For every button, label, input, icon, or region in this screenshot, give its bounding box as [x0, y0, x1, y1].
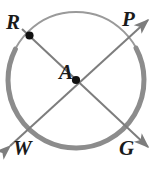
- point-a-marker: [72, 76, 80, 84]
- line-rg: [22, 29, 148, 147]
- point-r-marker: [25, 31, 33, 39]
- label-point-a: A: [59, 62, 73, 83]
- label-point-w: W: [13, 138, 32, 159]
- highlighted-arc-rw: [8, 48, 144, 148]
- label-point-r: R: [6, 12, 20, 33]
- label-point-p: P: [122, 9, 135, 30]
- label-point-g: G: [119, 138, 134, 159]
- geometry-figure: R P A W G: [0, 0, 159, 172]
